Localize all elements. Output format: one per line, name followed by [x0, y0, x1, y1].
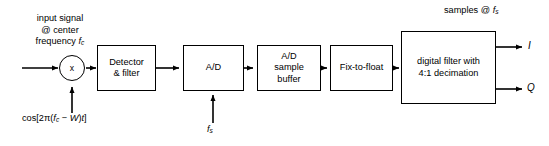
sample-clock-label: fs: [207, 124, 213, 137]
q-output-label: Q: [527, 82, 535, 94]
digital-filter-block[interactable]: digital filter with 4:1 decimation: [401, 31, 496, 104]
multiplier-block[interactable]: x: [59, 55, 85, 81]
input-signal-label: input signal @ center frequency fc: [18, 13, 102, 49]
digital-filter-label: digital filter with 4:1 decimation: [417, 56, 480, 79]
adc-sample-buffer-block[interactable]: A/D sample buffer: [257, 45, 321, 91]
fix-to-float-block[interactable]: Fix-to-float: [330, 45, 393, 91]
multiplier-label: x: [70, 63, 74, 73]
i-output-label: I: [528, 40, 531, 52]
samples-rate-label: samples @ fs: [444, 5, 499, 18]
adc-label: A/D: [206, 62, 221, 74]
block-diagram: samples @ fs input signal @ center frequ…: [0, 0, 549, 146]
detector-filter-label: Detector & filter: [109, 57, 144, 80]
local-oscillator-label: cos[2π(fc − W)t]: [22, 113, 87, 126]
detector-filter-block[interactable]: Detector & filter: [97, 45, 156, 91]
adc-sample-buffer-label: A/D sample buffer: [274, 51, 304, 86]
fix-to-float-label: Fix-to-float: [340, 62, 383, 74]
adc-block[interactable]: A/D: [183, 45, 244, 91]
